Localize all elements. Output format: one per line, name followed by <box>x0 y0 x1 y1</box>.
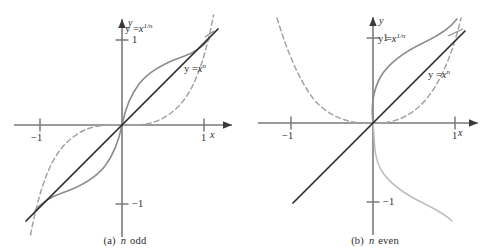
power-label-exp-a: n <box>202 62 206 70</box>
x-tick-pos1-b: 1 <box>452 131 457 142</box>
power-label-lhs-a: y = <box>184 63 198 74</box>
x-tick-neg1-b: −1 <box>282 131 293 142</box>
figure-power-functions: x y −1 1 1 −1 y =x1/n y =xn (a)n odd <box>0 0 500 252</box>
x-tick-pos1-a: 1 <box>201 133 206 144</box>
root-label-lhs-b: y = <box>378 33 392 44</box>
caption-tag-a: (a) <box>104 235 120 246</box>
root-label-exp-b: 1/n <box>396 32 405 40</box>
y-tick-neg1-a: −1 <box>132 199 143 210</box>
y-tick-neg1-b: −1 <box>383 197 394 208</box>
x-axis-label-b: x <box>458 128 462 138</box>
panel-a-n-odd: x y −1 1 1 −1 y =x1/n y =xn (a)n odd <box>0 0 250 252</box>
caption-var-b: n <box>368 235 375 246</box>
x-tick-neg1-a: −1 <box>31 133 42 144</box>
caption-a: (a)n odd <box>0 235 250 246</box>
identity-line-b <box>293 31 465 203</box>
curve-label-root-b: y =x1/n <box>378 34 405 45</box>
root-label-exp-a: 1/n <box>143 22 152 30</box>
caption-b: (b)n even <box>250 235 500 246</box>
panel-b-n-even: x y −1 1 1 −1 y =x1/n y =xn (b)n even <box>250 0 500 252</box>
y-tick-pos1-a: 1 <box>132 35 137 46</box>
plot-area-a <box>0 0 250 252</box>
caption-var-a: n <box>120 235 127 246</box>
caption-text-a: odd <box>130 235 146 246</box>
power-label-lhs-b: y = <box>428 69 442 80</box>
root-label-lhs-a: y = <box>125 23 139 34</box>
caption-tag-b: (b) <box>351 235 368 246</box>
caption-text-b: even <box>378 235 399 246</box>
y-axis-label-b: y <box>379 16 383 26</box>
plot-area-b <box>250 0 500 252</box>
curve-label-power-b: y =xn <box>428 70 450 81</box>
x-axis-label-a: x <box>210 130 214 140</box>
power-label-exp-b: n <box>446 68 450 76</box>
curve-label-root-a: y =x1/n <box>125 24 152 35</box>
curve-label-power-a: y =xn <box>184 64 206 75</box>
